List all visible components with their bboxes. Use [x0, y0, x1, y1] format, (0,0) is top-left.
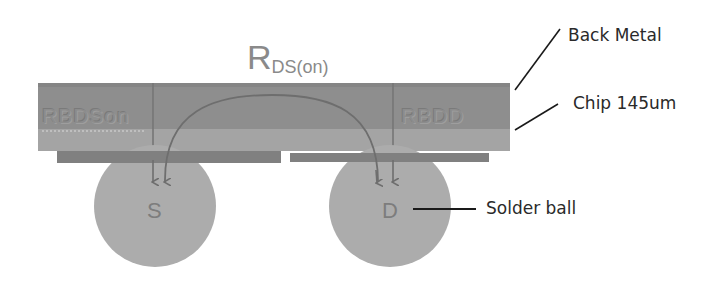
rdson-main-symbol: R [247, 38, 272, 76]
back-metal-leader-line [515, 29, 560, 90]
rdson-formula-label: RDS(on) [247, 40, 329, 74]
chip-leader-line [515, 104, 558, 130]
drain-pad [290, 153, 489, 162]
rbdson-region-label: RBDSon [42, 104, 130, 128]
solder-ball-callout: Solder ball [486, 198, 576, 218]
drain-terminal-label: D [382, 198, 398, 224]
rbdd-region-label: RBDD [401, 104, 465, 128]
back-metal-callout: Back Metal [568, 25, 662, 45]
rdson-subscript: DS(on) [272, 57, 329, 77]
rdson-current-path-arc-drain-head [376, 170, 377, 183]
chip-layer [38, 129, 510, 151]
source-pad [57, 151, 281, 163]
chip-thickness-callout: Chip 145um [573, 93, 676, 113]
source-terminal-label: S [147, 198, 162, 224]
